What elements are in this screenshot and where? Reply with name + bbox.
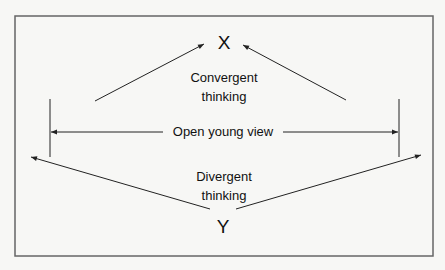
convergent-label-line2: thinking xyxy=(174,87,274,106)
convergent-label: Convergent thinking xyxy=(174,68,274,106)
divergent-label: Divergent thinking xyxy=(174,167,274,205)
node-y-label: Y xyxy=(214,216,232,238)
node-x-label: X xyxy=(215,32,233,54)
divergent-label-line1: Divergent xyxy=(174,167,274,186)
open-young-view-label: Open young view xyxy=(164,122,282,141)
divergent-label-line2: thinking xyxy=(174,186,274,205)
convergent-label-line1: Convergent xyxy=(174,68,274,87)
